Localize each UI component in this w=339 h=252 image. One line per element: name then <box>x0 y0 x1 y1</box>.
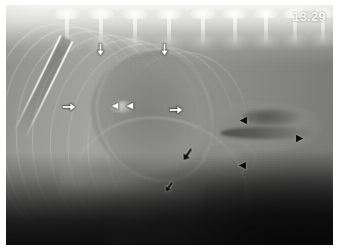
vertebra <box>219 8 252 52</box>
radiograph-image: 13.29 <box>6 5 333 245</box>
carina <box>110 101 136 113</box>
vertebra <box>152 8 186 54</box>
vertebral-body <box>188 35 217 51</box>
vertebra <box>186 8 219 53</box>
ventral-dark-wedge <box>103 125 333 245</box>
vertebra <box>118 8 152 54</box>
vertebral-body <box>281 34 309 49</box>
vertebra <box>250 8 282 51</box>
radiograph-figure: 13.29 <box>0 0 339 252</box>
timestamp-label: 13.29 <box>292 10 326 23</box>
vertebral-body <box>252 34 280 49</box>
vertebral-body <box>310 33 334 47</box>
vertebral-body <box>221 35 250 50</box>
gas-shadow-secondary <box>242 109 302 125</box>
vertebra <box>84 8 118 54</box>
